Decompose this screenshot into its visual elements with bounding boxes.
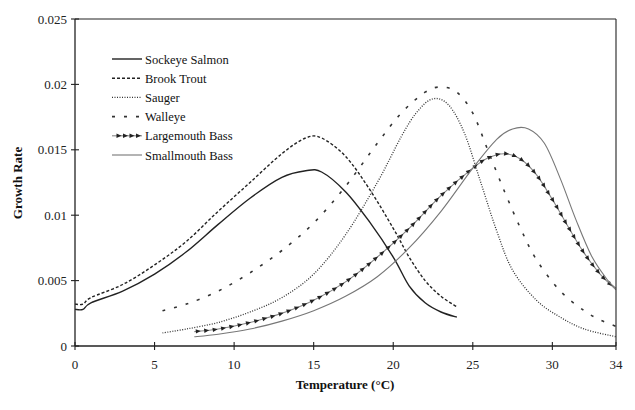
arrow-marker <box>302 301 308 307</box>
arrow-marker <box>286 308 292 314</box>
arrow-marker <box>563 219 569 226</box>
x-tick-label: 15 <box>307 357 320 372</box>
arrow-marker <box>576 241 582 248</box>
x-axis-title: Temperature (°C) <box>296 377 395 392</box>
arrow-marker <box>504 151 509 156</box>
legend-arrow-marker <box>130 134 135 138</box>
y-tick-label: 0.015 <box>38 142 67 157</box>
legend-arrow-marker <box>123 134 128 138</box>
x-tick-label: 34 <box>610 357 624 372</box>
arrow-marker <box>339 281 346 287</box>
arrow-marker <box>580 248 586 255</box>
legend-label-brook-trout: Brook Trout <box>145 72 207 86</box>
x-tick-label: 10 <box>228 357 241 372</box>
legend-label-smallmouth-bass: Smallmouth Bass <box>145 149 233 163</box>
arrow-marker <box>254 318 260 324</box>
x-tick-label: 25 <box>466 357 479 372</box>
arrow-marker <box>541 183 547 190</box>
arrow-marker <box>196 329 201 334</box>
y-axis-title: Growth Rate <box>10 147 25 220</box>
arrow-marker <box>512 153 518 159</box>
y-ticks: 00.0050.010.0150.020.025 <box>38 12 79 354</box>
arrow-marker <box>325 290 332 296</box>
arrow-marker <box>278 311 284 317</box>
arrow-marker <box>270 313 276 319</box>
x-tick-label: 5 <box>151 357 158 372</box>
y-tick-label: 0.01 <box>44 208 67 223</box>
series-line-sockeye-salmon <box>75 170 457 317</box>
arrow-marker <box>554 204 560 211</box>
x-tick-label: 0 <box>72 357 79 372</box>
y-tick-label: 0.025 <box>38 12 67 27</box>
arrow-marker <box>309 298 315 304</box>
series-curves <box>75 87 616 337</box>
growth-rate-chart: 05101520253034 00.0050.010.0150.020.025 … <box>0 0 635 410</box>
legend-label-largemouth-bass: Largemouth Bass <box>145 129 233 143</box>
arrow-marker <box>204 328 209 333</box>
legend-arrow-marker <box>136 134 141 138</box>
arrow-marker <box>294 305 300 311</box>
series-line-brook-trout <box>75 136 457 307</box>
arrow-marker <box>262 316 268 322</box>
legend-arrow-marker <box>117 134 122 138</box>
y-tick-label: 0.005 <box>38 273 67 288</box>
legend: Sockeye SalmonBrook TroutSaugerWalleyeLa… <box>112 53 233 163</box>
y-tick-label: 0 <box>61 339 68 354</box>
legend-label-walleye: Walleye <box>145 110 186 124</box>
x-tick-label: 30 <box>546 357 559 372</box>
legend-label-sauger: Sauger <box>145 91 181 105</box>
arrow-marker <box>550 197 556 204</box>
legend-label-sockeye-salmon: Sockeye Salmon <box>145 53 229 67</box>
series-line-largemouth-bass <box>194 154 616 332</box>
arrow-marker <box>567 227 573 234</box>
arrow-marker <box>332 285 339 291</box>
axes <box>75 19 616 346</box>
arrow-marker <box>571 234 577 241</box>
arrow-marker <box>545 190 551 197</box>
series-line-walleye <box>163 87 617 326</box>
y-tick-label: 0.02 <box>44 77 67 92</box>
arrow-marker <box>317 294 323 300</box>
x-tick-label: 20 <box>387 357 400 372</box>
arrow-marker <box>558 212 564 219</box>
arrow-marker <box>487 154 493 160</box>
